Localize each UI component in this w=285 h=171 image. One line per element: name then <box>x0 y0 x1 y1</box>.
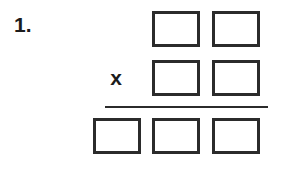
product-digit-box-tens[interactable] <box>152 118 200 154</box>
multiplier-digit-box-tens[interactable] <box>152 60 200 96</box>
product-digit-box-hundreds[interactable] <box>93 118 141 154</box>
multiplier-digit-box-ones[interactable] <box>212 60 260 96</box>
product-digit-box-ones[interactable] <box>212 118 260 154</box>
multiplicand-digit-box-ones[interactable] <box>212 11 260 47</box>
multiplicand-digit-box-tens[interactable] <box>152 11 200 47</box>
problem-number-label: 1. <box>14 14 32 36</box>
worksheet-problem: 1. x <box>0 0 285 171</box>
answer-rule-divider <box>105 106 268 108</box>
multiplication-operator-icon: x <box>106 65 126 91</box>
